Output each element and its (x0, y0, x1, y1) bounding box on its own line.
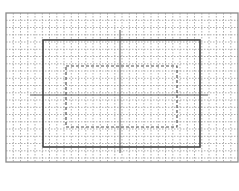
safe-area-diagram (0, 0, 239, 191)
grid (6, 13, 238, 162)
title-safe-rect (66, 66, 177, 127)
